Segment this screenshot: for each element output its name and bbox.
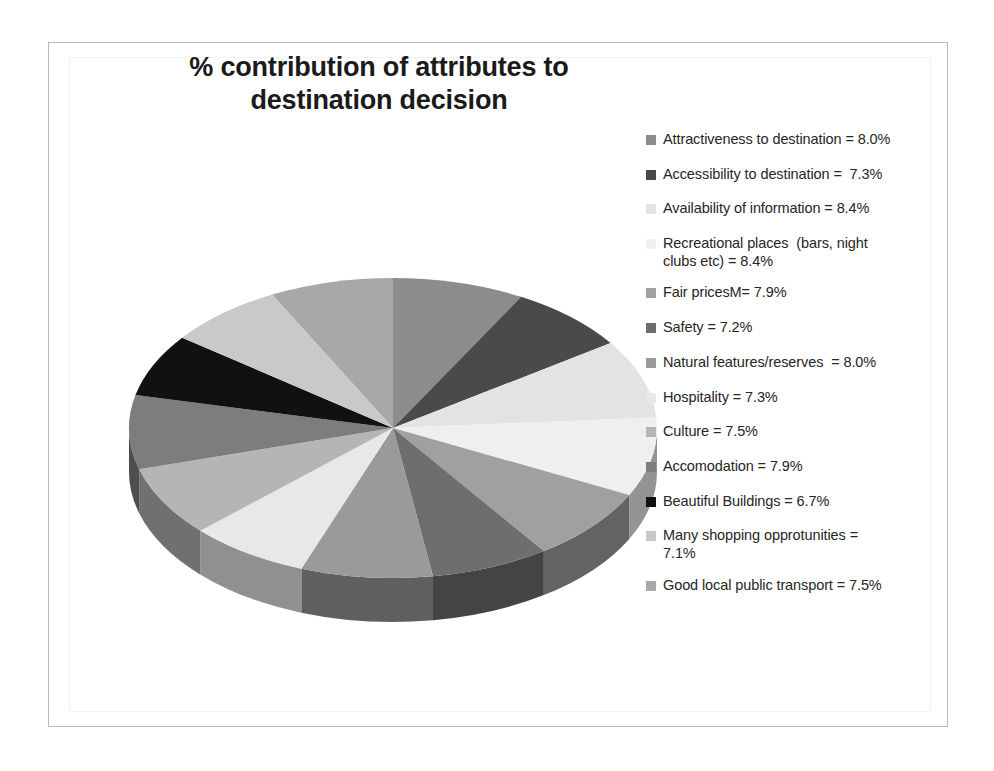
pie-chart-svg <box>59 223 679 643</box>
legend-item-accomodation[interactable]: Accomodation = 7.9% <box>646 458 946 476</box>
legend-label: Attractiveness to destination = 8.0% <box>663 131 890 149</box>
legend-item-availability-of-information[interactable]: Availability of information = 8.4% <box>646 200 946 218</box>
legend-item-culture[interactable]: Culture = 7.5% <box>646 423 946 441</box>
legend-item-many-shopping-opprotunities[interactable]: Many shopping opprotunities = 7.1% <box>646 527 946 562</box>
pie-chart <box>59 223 679 643</box>
legend-item-safety[interactable]: Safety = 7.2% <box>646 319 946 337</box>
legend-swatch-icon <box>646 393 656 403</box>
legend-swatch-icon <box>646 497 656 507</box>
legend-label: Natural features/reserves = 8.0% <box>663 354 876 372</box>
legend-swatch-icon <box>646 135 656 145</box>
chart-title-line-2: destination decision <box>109 84 649 117</box>
chart-frame: % contribution of attributes to destinat… <box>48 42 948 727</box>
legend-item-beautiful-buildings[interactable]: Beautiful Buildings = 6.7% <box>646 493 946 511</box>
legend-swatch-icon <box>646 204 656 214</box>
legend-item-accessibility-to-destination[interactable]: Accessibility to destination = 7.3% <box>646 166 946 184</box>
legend-item-natural-features-reserves[interactable]: Natural features/reserves = 8.0% <box>646 354 946 372</box>
legend-label: Hospitality = 7.3% <box>663 389 778 407</box>
legend-item-hospitality[interactable]: Hospitality = 7.3% <box>646 389 946 407</box>
legend-label: Beautiful Buildings = 6.7% <box>663 493 829 511</box>
legend-swatch-icon <box>646 462 656 472</box>
legend-swatch-icon <box>646 427 656 437</box>
legend-label: Good local public transport = 7.5% <box>663 577 882 595</box>
legend-swatch-icon <box>646 170 656 180</box>
legend-item-attractiveness-to-destination[interactable]: Attractiveness to destination = 8.0% <box>646 131 946 149</box>
legend-label: Accomodation = 7.9% <box>663 458 803 476</box>
legend-swatch-icon <box>646 581 656 591</box>
legend-item-recreational-places[interactable]: Recreational places (bars, night clubs e… <box>646 235 946 270</box>
legend-label: Fair pricesM= 7.9% <box>663 284 787 302</box>
legend-label: Culture = 7.5% <box>663 423 758 441</box>
legend-swatch-icon <box>646 358 656 368</box>
legend-label: Accessibility to destination = 7.3% <box>663 166 882 184</box>
legend-swatch-icon <box>646 288 656 298</box>
chart-title-line-1: % contribution of attributes to <box>109 51 649 84</box>
legend-label: Recreational places (bars, night clubs e… <box>663 235 868 270</box>
legend-item-fair-prices[interactable]: Fair pricesM= 7.9% <box>646 284 946 302</box>
legend-label: Many shopping opprotunities = 7.1% <box>663 527 858 562</box>
legend-swatch-icon <box>646 239 656 249</box>
legend-swatch-icon <box>646 531 656 541</box>
pie-top-slices <box>129 278 657 578</box>
legend-label: Availability of information = 8.4% <box>663 200 869 218</box>
chart-legend: Attractiveness to destination = 8.0%Acce… <box>646 131 946 711</box>
legend-label: Safety = 7.2% <box>663 319 752 337</box>
legend-swatch-icon <box>646 323 656 333</box>
legend-item-good-local-public-transport[interactable]: Good local public transport = 7.5% <box>646 577 946 595</box>
chart-title: % contribution of attributes to destinat… <box>109 51 649 117</box>
